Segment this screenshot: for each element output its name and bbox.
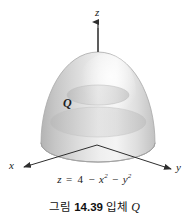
caption-prefix: 그림 <box>49 201 71 213</box>
equation-lhs: z <box>57 173 62 185</box>
caption-middle: 입체 <box>106 201 128 213</box>
paraboloid-diagram <box>0 0 189 220</box>
caption-number: 14.39 <box>74 201 103 213</box>
x-axis-label: x <box>9 160 14 171</box>
surface-equation: z = 4 − x2 − y2 <box>0 172 189 185</box>
equation-y-exponent: 2 <box>128 172 132 180</box>
equation-constant: 4 <box>77 173 85 185</box>
figure-caption: 그림 14.39 입체 Q <box>0 198 189 215</box>
solid-region-label: Q <box>63 97 72 109</box>
equation-equals: = <box>65 173 74 185</box>
equation-minus-1: − <box>87 173 96 185</box>
equation-minus-2: − <box>111 173 120 185</box>
equation-x-exponent: 2 <box>104 172 108 180</box>
cross-section-lower <box>50 107 146 137</box>
caption-variable: Q <box>131 200 140 214</box>
figure-container: z x y Q z = 4 − x2 − y2 그림 14.39 입체 Q <box>0 0 189 220</box>
z-axis-label: z <box>95 7 99 18</box>
cross-section-upper <box>67 85 129 105</box>
